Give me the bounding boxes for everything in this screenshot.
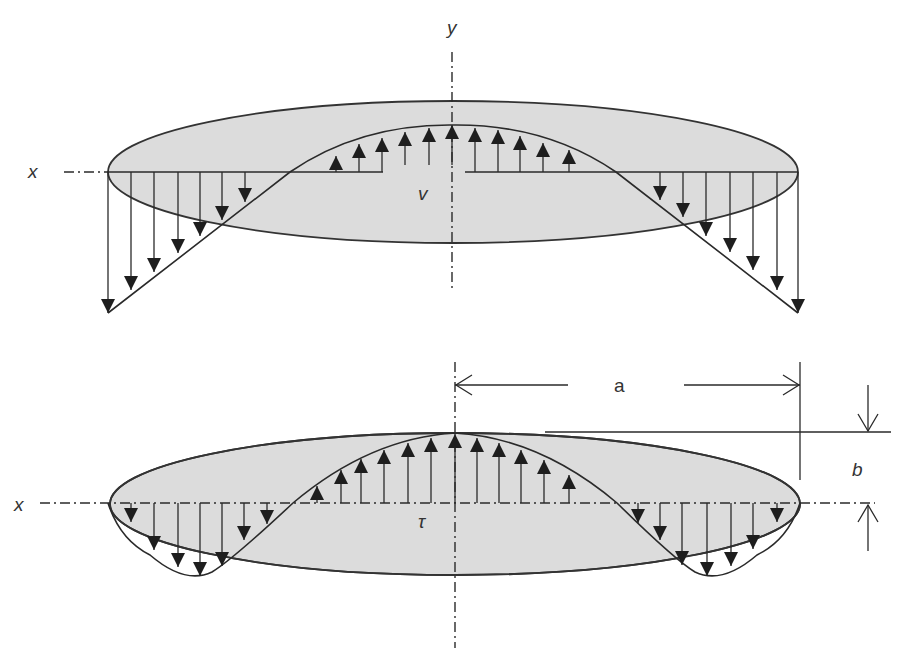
x-axis-label-bottom: x — [13, 494, 25, 515]
shear-label-v: v — [418, 183, 429, 204]
dimension-a-label: a — [614, 375, 625, 396]
dimension-b-label: b — [852, 459, 863, 480]
diagram-canvas: y x — [0, 0, 911, 662]
x-axis-label-top: x — [27, 161, 39, 182]
bottom-panel-torsion-shear: x — [13, 362, 891, 648]
top-panel-bending-shear: y x — [27, 17, 798, 313]
y-axis-label: y — [445, 17, 458, 38]
